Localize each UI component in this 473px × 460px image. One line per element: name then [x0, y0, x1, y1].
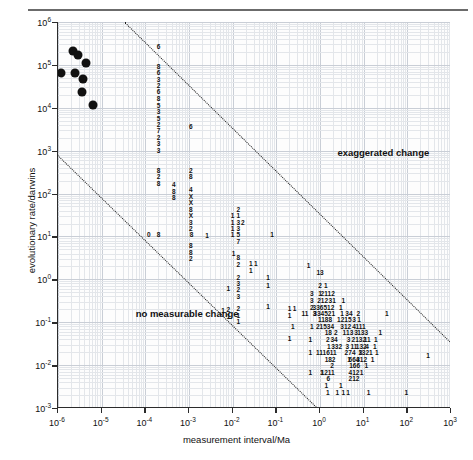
gridline-horizontal [58, 39, 450, 40]
gridline-horizontal [58, 160, 450, 161]
y-tick-mark [52, 108, 57, 109]
gridline-horizontal [58, 164, 450, 165]
gridline-vertical [303, 22, 304, 407]
x-tick-label: 10-5 [93, 416, 109, 428]
x-tick-mark [363, 408, 364, 413]
data-point-circle [78, 88, 87, 97]
gridline-horizontal [58, 69, 450, 70]
gridline-vertical [438, 22, 439, 407]
gridline-vertical [226, 22, 227, 407]
y-axis-title: evolutionary rate/darwins [26, 141, 37, 301]
data-point-count: 1 [288, 313, 292, 320]
data-point-count: 1 [291, 324, 295, 331]
gridline-horizontal [58, 181, 450, 182]
gridline-vertical [210, 22, 211, 407]
figure-scatter-plot: 68632685352723382884886284XX8X3288211111… [0, 0, 473, 460]
x-tick-label: 101 [356, 416, 370, 428]
y-tick-mark [52, 279, 57, 280]
data-point-count: 1 [309, 369, 313, 376]
data-point-count: 8 [172, 195, 176, 202]
gridline-horizontal [58, 24, 450, 25]
data-point-count: 1 [266, 283, 270, 290]
gridline-horizontal [58, 369, 450, 370]
data-point-count: 2 [318, 283, 322, 290]
gridline-vertical [215, 22, 216, 407]
gridline-vertical [449, 22, 450, 407]
y-tick-mark [52, 365, 57, 366]
gridline-horizontal [58, 352, 450, 353]
data-point-count: 1 [270, 231, 274, 238]
gridline-horizontal [58, 110, 450, 111]
gridline-vertical [385, 22, 386, 407]
gridline-horizontal [58, 241, 450, 242]
data-point-count: 0 [147, 231, 151, 238]
gridline-vertical [401, 22, 402, 407]
y-tick-mark [52, 65, 57, 66]
data-point-count: 2 [189, 256, 193, 263]
gridline-horizontal [58, 292, 450, 293]
gridline-horizontal [58, 367, 450, 368]
data-point-count: 1 [227, 286, 231, 293]
gridline-vertical [95, 22, 96, 407]
x-tick-mark [101, 408, 102, 413]
data-point-count: 2 [237, 261, 241, 268]
gridline-horizontal [58, 173, 450, 174]
x-tick-mark [319, 408, 320, 413]
data-point-count: 1 [365, 363, 369, 370]
y-tick-mark [52, 408, 57, 409]
data-point-count: 6 [189, 124, 193, 131]
data-point-count: 1 [288, 336, 292, 343]
gridline-vertical [220, 22, 221, 407]
gridline-vertical [97, 22, 98, 407]
gridline-horizontal [58, 216, 450, 217]
x-tick-label: 10-4 [136, 416, 152, 428]
gridline-horizontal [58, 52, 450, 53]
gridline-horizontal [58, 339, 450, 340]
gridline-horizontal [58, 375, 450, 376]
y-tick-mark [52, 322, 57, 323]
data-point-circle [81, 59, 90, 68]
region-label-exaggerated-change: exaggerated change [337, 147, 429, 158]
gridline-vertical [92, 22, 93, 407]
data-point-count: 1 [232, 250, 236, 257]
gridline-horizontal [58, 194, 450, 195]
gridline-vertical [89, 22, 90, 407]
gridline-vertical [254, 22, 255, 407]
gridline-horizontal [58, 289, 450, 290]
gridline-horizontal [58, 378, 450, 379]
gridline-horizontal [58, 249, 450, 250]
gridline-horizontal [58, 302, 450, 303]
gridline-horizontal [58, 365, 450, 366]
gridline-horizontal [58, 322, 450, 323]
data-point-count: 1 [307, 263, 311, 270]
x-tick-label: 10-1 [267, 416, 283, 428]
data-point-count: 1 [325, 383, 329, 390]
gridline-vertical [274, 22, 275, 407]
gridline-horizontal [58, 198, 450, 199]
data-point-count: 8 [157, 180, 161, 187]
gridline-vertical [202, 22, 203, 407]
y-tick-mark [52, 22, 57, 23]
data-point-count: 6 [157, 44, 161, 51]
gridline-vertical [428, 22, 429, 407]
data-point-circle [74, 51, 83, 60]
data-point-count: 1 [254, 261, 258, 268]
gridline-vertical [102, 22, 103, 407]
x-tick-label: 10-3 [180, 416, 196, 428]
gridline-vertical [297, 22, 298, 407]
gridline-horizontal [58, 35, 450, 36]
gridline-horizontal [58, 138, 450, 139]
data-point-count: 2 [241, 219, 245, 226]
gridline-horizontal [58, 125, 450, 126]
x-tick-label: 10-6 [49, 416, 65, 428]
gridline-vertical [420, 22, 421, 407]
gridline-vertical [259, 22, 260, 407]
y-tick-mark [52, 194, 57, 195]
gridline-horizontal [58, 382, 450, 383]
gridline-horizontal [58, 286, 450, 287]
data-point-count: 8 [189, 174, 193, 181]
gridline-vertical [166, 22, 167, 407]
gridline-horizontal [58, 78, 450, 79]
gridline-horizontal [58, 372, 450, 373]
gridline-vertical [123, 22, 124, 407]
